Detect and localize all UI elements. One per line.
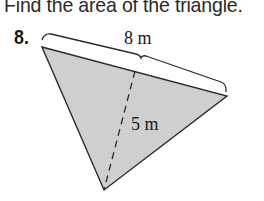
- triangle-figure: 8 m 5 m: [0, 0, 264, 201]
- base-label: 8 m: [124, 28, 152, 48]
- height-label: 5 m: [131, 114, 159, 134]
